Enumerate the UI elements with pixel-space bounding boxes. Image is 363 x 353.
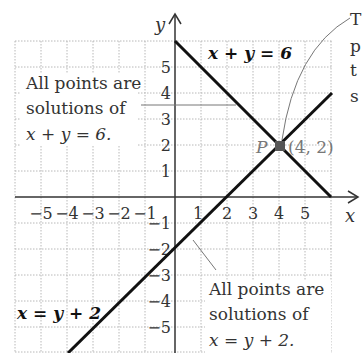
svg-text:4: 4 (161, 84, 171, 103)
svg-text:5: 5 (300, 204, 310, 223)
svg-text:s: s (350, 86, 359, 106)
x-axis-label: x (345, 205, 355, 226)
point-name: P (255, 137, 268, 157)
svg-text:−4: −4 (147, 292, 171, 311)
svg-text:−3: −3 (147, 266, 171, 285)
svg-text:2: 2 (222, 204, 232, 223)
svg-text:3: 3 (248, 204, 258, 223)
svg-text:T: T (350, 9, 362, 29)
svg-text:solutions of: solutions of (209, 304, 310, 324)
y-axis-label: y (154, 14, 166, 35)
svg-text:All points are: All points are (25, 73, 141, 93)
svg-text:−5: −5 (147, 318, 171, 337)
svg-text:x = y + 2.: x = y + 2. (209, 330, 295, 350)
svg-text:−5: −5 (29, 204, 53, 223)
svg-text:All points are: All points are (208, 279, 324, 299)
svg-text:t: t (350, 60, 357, 80)
eq2-label: x = y + 2 (16, 303, 101, 323)
svg-text:2: 2 (161, 136, 171, 155)
svg-text:4: 4 (274, 204, 284, 223)
eq1-label: x + y = 6 (207, 43, 292, 63)
coordinate-plane: x y −5 −4 −3 −2 −1 1 2 3 4 5 5 4 3 2 1 −… (0, 0, 363, 353)
svg-text:p: p (350, 36, 361, 56)
svg-text:−4: −4 (55, 204, 79, 223)
svg-text:solutions of: solutions of (26, 98, 127, 118)
svg-text:−1: −1 (147, 214, 171, 233)
point-coords: (4, 2) (288, 137, 334, 157)
svg-text:−3: −3 (81, 204, 105, 223)
svg-text:−2: −2 (107, 204, 131, 223)
leader-note2 (193, 240, 216, 270)
svg-text:x + y = 6.: x + y = 6. (26, 124, 112, 144)
intersection-point (275, 141, 285, 151)
svg-text:3: 3 (161, 110, 171, 129)
leader-note3 (282, 18, 350, 140)
note3-partial: T p t s (350, 9, 362, 106)
svg-text:5: 5 (161, 58, 171, 77)
svg-text:1: 1 (161, 162, 171, 181)
